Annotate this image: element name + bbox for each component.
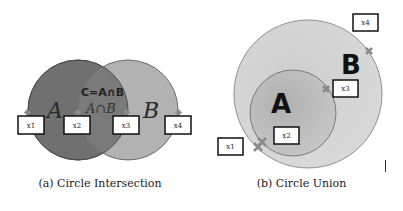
box-x2: x2: [64, 116, 90, 134]
box-x3: x3: [113, 116, 139, 134]
label-a: A: [271, 89, 291, 119]
svg-text:x1: x1: [27, 122, 35, 130]
label-b: B: [341, 50, 361, 80]
panel-circle-intersection: A B C=A∩B A∩B x1 x2 x3 x4 (a) Circle Int…: [0, 0, 200, 211]
svg-text:x4: x4: [174, 122, 183, 130]
svg-text:x3: x3: [341, 85, 349, 93]
svg-text:x4: x4: [361, 19, 370, 27]
svg-text:x2: x2: [73, 122, 81, 130]
svg-text:x3: x3: [122, 122, 130, 130]
svg-text:x1: x1: [226, 143, 234, 151]
label-a: A: [45, 98, 63, 123]
box-x4: x4: [165, 116, 191, 134]
panel-circle-union: A B x1 x2 x3 x4 (b) Circle Union: [200, 0, 403, 211]
box-x1: x1: [18, 116, 44, 134]
box-x1: x1: [218, 138, 243, 155]
label-b: B: [142, 98, 159, 123]
text-cursor-mark: [385, 160, 386, 172]
caption-intersection: (a) Circle Intersection: [0, 177, 200, 190]
box-x4: x4: [353, 14, 378, 31]
box-x2: x2: [274, 127, 299, 144]
intersection-title: C=A∩B: [81, 86, 124, 99]
intersection-label: A∩B: [85, 101, 116, 116]
svg-text:x2: x2: [282, 132, 290, 140]
caption-union: (b) Circle Union: [200, 177, 403, 190]
box-x3: x3: [333, 80, 358, 97]
